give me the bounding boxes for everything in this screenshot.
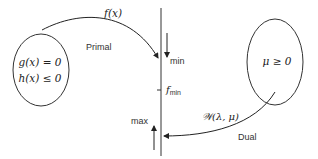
primal-feasible-set	[13, 34, 69, 106]
primal-label: Primal	[86, 42, 112, 52]
dual-label: Dual	[238, 132, 257, 142]
diagram-svg: g(x) = 0 h(x) ≤ 0 μ ≥ 0 f(x) Primal 𝒲(λ,…	[0, 0, 318, 159]
fmin-label: fmin	[165, 84, 181, 96]
primal-constraint-equality: g(x) = 0	[19, 56, 62, 68]
max-label: max	[131, 116, 149, 126]
primal-constraint-inequality: h(x) ≤ 0	[18, 72, 61, 84]
primal-function-label: f(x)	[103, 7, 122, 19]
primal-dual-diagram: g(x) = 0 h(x) ≤ 0 μ ≥ 0 f(x) Primal 𝒲(λ,…	[0, 0, 318, 159]
dual-constraint: μ ≥ 0	[263, 55, 292, 67]
fmin-subscript: min	[170, 89, 181, 96]
min-label: min	[170, 56, 185, 66]
dual-function-label: 𝒲(λ, μ)	[202, 111, 239, 122]
